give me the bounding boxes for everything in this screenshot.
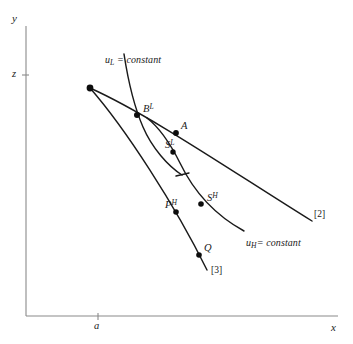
point-label-B-low: BL [143, 103, 154, 115]
y-axis-label: y [12, 13, 17, 24]
point-label-S-high: SH [207, 192, 218, 204]
line-3-label: [3] [211, 266, 222, 276]
u-low-constant-label: uL = constant [105, 55, 161, 67]
u-low-rest: = constant [114, 54, 161, 65]
u-high-rest: = constant [257, 237, 301, 248]
y-tick-label-z: z [12, 69, 16, 80]
line-2-label: [2] [314, 210, 325, 220]
data-point-A [173, 130, 179, 136]
point-label-P-high: PH [165, 199, 177, 211]
data-point-B-low [134, 112, 140, 118]
point-label-A: A [181, 121, 188, 132]
x-tick-label-a: a [94, 321, 99, 332]
point-label-superscript: L [150, 102, 154, 111]
point-label-base: A [181, 120, 188, 131]
point-label-superscript: H [172, 198, 178, 207]
point-label-S-low: SL [165, 139, 175, 151]
diagram-canvas [0, 0, 353, 344]
point-label-superscript: H [212, 191, 218, 200]
data-point-Q [196, 252, 202, 258]
figure-container: y x z a uL = constant uH= constant [2] [… [0, 0, 353, 344]
indifference-curve-u-high [147, 118, 244, 231]
point-label-superscript: L [170, 138, 174, 147]
point-label-base: Q [204, 242, 212, 253]
budget-line-2 [90, 88, 312, 221]
x-axis-label: x [331, 322, 336, 333]
data-point-endowment [87, 85, 94, 92]
u-high-constant-label: uH= constant [246, 238, 301, 250]
data-point-S-high [198, 201, 204, 207]
point-label-Q: Q [204, 243, 212, 254]
